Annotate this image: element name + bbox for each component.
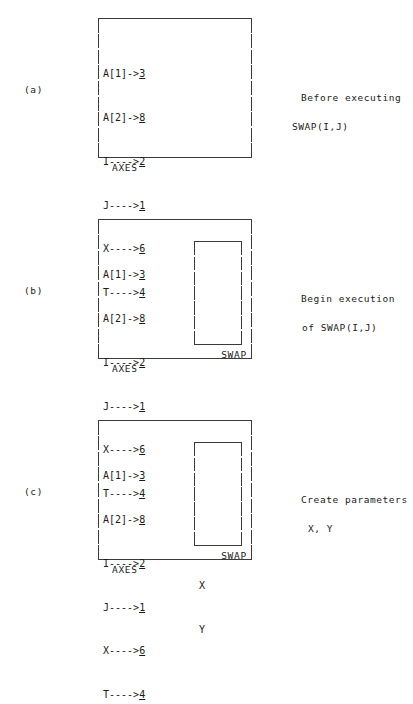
annotation-line-1: Before executing xyxy=(301,92,401,103)
slot-row xyxy=(199,535,247,550)
frame-top-rule xyxy=(98,18,252,19)
inner-frame-top-rule xyxy=(194,442,242,443)
slot-row xyxy=(199,491,247,506)
slot-row xyxy=(199,290,247,305)
binding-name: A[2] xyxy=(103,112,127,123)
slot-row xyxy=(199,666,247,681)
binding-value: 1 xyxy=(139,602,145,613)
binding-arrow: -> xyxy=(127,112,139,123)
axes-frame-caption-c: AXES xyxy=(112,564,138,575)
binding-row: A[2]->8 xyxy=(103,312,145,327)
annotation-line-2: SWAP(I,J) xyxy=(276,120,401,135)
swap-frame-caption-b: SWAP xyxy=(210,349,258,360)
annotation-line-1: Create parameters xyxy=(301,494,408,505)
binding-arrow: ----> xyxy=(109,689,139,700)
binding-arrow: -> xyxy=(127,313,139,324)
binding-name: A[2] xyxy=(103,514,127,525)
binding-value: 3 xyxy=(139,470,145,481)
binding-value: 6 xyxy=(139,645,145,656)
axes-frame-a: A[1]->3 A[2]->8 I---->2 J---->1 X---->6 … xyxy=(98,18,252,158)
binding-arrow: -> xyxy=(127,514,139,525)
panel-annotation-a: Before executing SWAP(I,J) xyxy=(276,76,401,163)
binding-row: A[1]->3 xyxy=(103,268,145,283)
swap-frame-caption-c: SWAP xyxy=(210,550,258,561)
inner-frame-left-edge xyxy=(191,241,198,345)
binding-value: 8 xyxy=(139,112,145,123)
binding-name: A[2] xyxy=(103,313,127,324)
binding-name: A[1] xyxy=(103,68,127,79)
frame-right-edge xyxy=(248,420,255,560)
frame-top-rule xyxy=(98,219,252,220)
swap-frame-c: X Y SWAP xyxy=(194,442,242,546)
binding-row: X---->6 xyxy=(103,644,145,659)
binding-row: A[1]->3 xyxy=(103,469,145,484)
frame-left-edge xyxy=(95,18,102,158)
axes-frame-b: A[1]->3 A[2]->8 I---->2 J---->1 X---->6 … xyxy=(98,219,252,359)
frame-left-edge xyxy=(95,219,102,359)
slot-row xyxy=(199,378,247,393)
figure-panel-b: (b) A[1]->3 A[2]->8 I---->2 J---->1 X---… xyxy=(0,201,413,402)
slot-row-param-x: X xyxy=(199,579,247,594)
slot-row-param-y: Y xyxy=(199,623,247,638)
binding-row: T---->4 xyxy=(103,688,145,703)
binding-arrow: -> xyxy=(127,68,139,79)
swap-slots-c: X Y xyxy=(199,462,247,704)
axes-frame-c: A[1]->3 A[2]->8 I---->2 J---->1 X---->6 … xyxy=(98,420,252,560)
panel-label-b: (b) xyxy=(24,285,43,296)
frame-right-edge xyxy=(248,219,255,359)
figure-panel-c: (c) A[1]->3 A[2]->8 I---->2 J---->1 X---… xyxy=(0,402,413,603)
figure-panel-a: (a) A[1]->3 A[2]->8 I---->2 J---->1 X---… xyxy=(0,0,413,201)
annotation-line-1: Begin execution xyxy=(301,293,395,304)
annotation-line-2: of SWAP(I,J) xyxy=(276,321,395,336)
annotation-line-2: X, Y xyxy=(276,522,408,537)
binding-arrow: ----> xyxy=(109,645,139,656)
binding-value: 2 xyxy=(139,558,145,569)
binding-arrow: ----> xyxy=(109,602,139,613)
frame-right-edge xyxy=(248,18,255,158)
frame-left-edge xyxy=(95,420,102,560)
binding-row: A[2]->8 xyxy=(103,111,145,126)
binding-value: 2 xyxy=(139,156,145,167)
binding-value: 3 xyxy=(139,269,145,280)
axes-frame-caption-a: AXES xyxy=(112,162,138,173)
binding-arrow: -> xyxy=(127,269,139,280)
panel-annotation-b: Begin execution of SWAP(I,J) xyxy=(276,277,395,364)
panel-label-a: (a) xyxy=(24,84,43,95)
binding-value: 4 xyxy=(139,689,145,700)
binding-row: J---->1 xyxy=(103,601,145,616)
binding-row: A[2]->8 xyxy=(103,513,145,528)
binding-row: A[1]->3 xyxy=(103,67,145,82)
swap-frame-b: SWAP xyxy=(194,241,242,345)
panel-annotation-c: Create parameters X, Y xyxy=(276,478,408,565)
binding-name: A[1] xyxy=(103,269,127,280)
inner-frame-left-edge xyxy=(191,442,198,546)
axes-frame-caption-b: AXES xyxy=(112,363,138,374)
binding-arrow: -> xyxy=(127,470,139,481)
panel-label-c: (c) xyxy=(24,486,43,497)
binding-value: 3 xyxy=(139,68,145,79)
binding-name: A[1] xyxy=(103,470,127,481)
frame-top-rule xyxy=(98,420,252,421)
binding-value: 2 xyxy=(139,357,145,368)
binding-value: 8 xyxy=(139,313,145,324)
inner-frame-top-rule xyxy=(194,241,242,242)
slot-row xyxy=(199,334,247,349)
binding-value: 8 xyxy=(139,514,145,525)
